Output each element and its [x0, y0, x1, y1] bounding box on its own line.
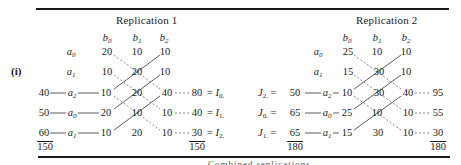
figure-caption: Combined replications [208, 159, 311, 165]
row-label-a0: a0 [67, 46, 76, 59]
cell: 10 [160, 46, 171, 57]
cell: 15 [342, 127, 353, 138]
cell: 10 [401, 66, 412, 77]
i-total-label: = I1. [207, 107, 224, 120]
cell: 30 [373, 127, 384, 138]
cell: 10 [401, 46, 412, 57]
left-total: 65 [290, 107, 301, 118]
left-total: 50 [290, 87, 301, 98]
cell: 10 [101, 87, 112, 98]
cell: 20 [132, 127, 143, 138]
cell: 40 [162, 87, 173, 98]
row-label-a1: a1 [323, 127, 332, 140]
row-label-a1: a1 [67, 66, 76, 79]
cell: 20 [132, 66, 143, 77]
cell: 10 [403, 107, 414, 118]
col-header-b0: b0 [343, 32, 352, 45]
j-total-label: J1. = [258, 127, 276, 140]
cell: 10 [342, 87, 353, 98]
right-total: 80 [192, 87, 203, 98]
cell: 10 [162, 127, 173, 138]
cell: 10 [372, 107, 383, 118]
cell: 10 [162, 107, 173, 118]
cell: 10 [132, 46, 143, 57]
cell: 10 [372, 46, 383, 57]
right-total: 30 [433, 127, 444, 138]
col-header-b2: b2 [402, 32, 411, 45]
row-label-a0: a0 [314, 46, 323, 59]
col-header-b1: b1 [373, 32, 382, 45]
j-total-label: J2. = [258, 87, 276, 100]
cell: 30 [374, 87, 385, 98]
left-total: 40 [39, 87, 50, 98]
cell: 20 [101, 107, 112, 118]
right-total: 30 [192, 127, 203, 138]
cell: 15 [343, 66, 354, 77]
cell: 10 [101, 127, 112, 138]
right-total: 40 [192, 107, 203, 118]
left-grand-total: 180 [287, 141, 303, 152]
cell: 40 [403, 87, 414, 98]
cell: 10 [403, 127, 414, 138]
right-total: 55 [433, 107, 444, 118]
cell: 10 [102, 66, 113, 77]
cell: 30 [374, 66, 385, 77]
left-grand-total: 150 [37, 141, 53, 152]
cell: 10 [160, 66, 171, 77]
cell: 25 [342, 107, 353, 118]
cell: 20 [102, 46, 113, 57]
col-header-b2: b2 [160, 32, 169, 45]
cell: 10 [132, 107, 143, 118]
row-label-a0: a0 [323, 107, 332, 120]
i-total-label: = I0. [207, 87, 224, 100]
cell: 20 [132, 87, 143, 98]
j-total-label: J0. = [258, 107, 276, 120]
right-grand-total: 180 [430, 141, 446, 152]
row-label-a2: a2 [68, 87, 77, 100]
right-grand-total: 150 [189, 141, 205, 152]
row-label-a0: a0 [68, 107, 77, 120]
col-header-b1: b1 [133, 32, 142, 45]
replication-title: Replication 2 [356, 14, 418, 26]
replication-title: Replication 1 [116, 14, 178, 26]
left-total: 60 [39, 127, 50, 138]
cell: 25 [343, 46, 354, 57]
left-total: 50 [39, 107, 50, 118]
row-label-a1: a1 [68, 127, 77, 140]
right-total: 95 [433, 87, 444, 98]
left-total: 65 [290, 127, 301, 138]
row-label-a1: a1 [314, 66, 323, 79]
col-header-b0: b0 [103, 32, 112, 45]
i-total-label: = I2. [207, 127, 224, 140]
row-label-a2: a2 [323, 87, 332, 100]
